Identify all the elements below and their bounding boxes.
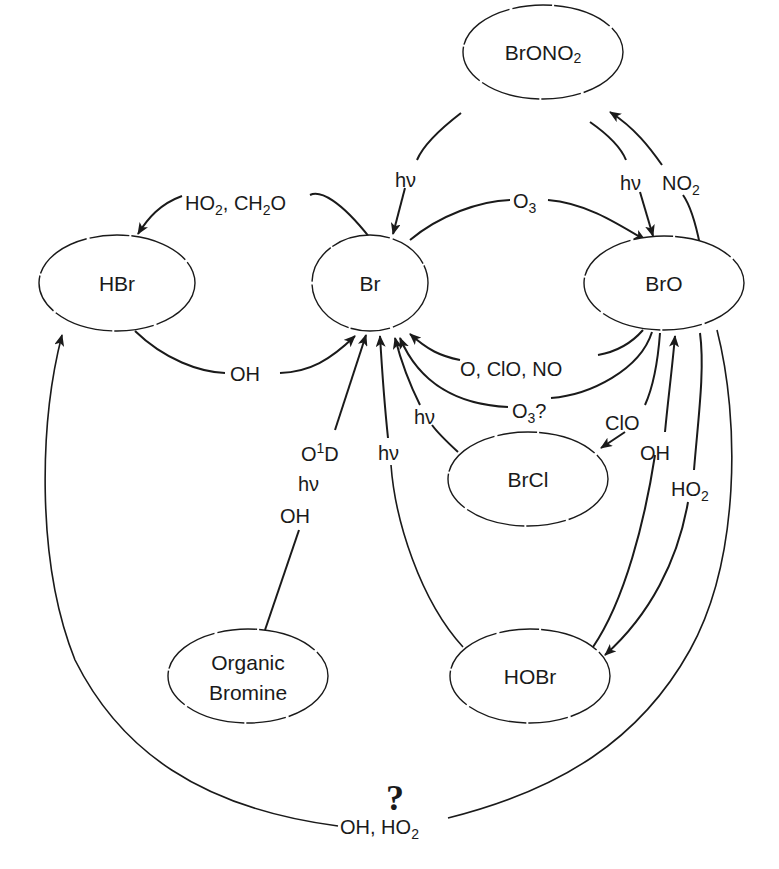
label-br-to-hbr: HO2, CH2O <box>185 192 286 218</box>
node-br: Br <box>312 235 428 331</box>
svg-text:BrONO2: BrONO2 <box>505 41 582 67</box>
edge-brcl-to-br <box>432 425 458 452</box>
label-brcl-to-br: hν <box>414 406 435 428</box>
node-hbr: HBr <box>39 235 195 331</box>
node-hbr-label: HBr <box>99 272 135 295</box>
label-bronono2-to-bro: hν <box>620 172 641 194</box>
node-brcl-label: BrCl <box>508 468 549 491</box>
node-br-label: Br <box>360 272 381 295</box>
node-bronono2-label: BrONO <box>505 41 574 64</box>
label-br-to-bro: O3 <box>513 190 537 216</box>
edge-bro-to-hobr <box>694 333 702 470</box>
label-hobr-to-bro: OH <box>640 442 670 464</box>
node-hobr: HOBr <box>450 629 610 723</box>
edge-hobr-to-br-arrow <box>380 336 388 438</box>
label-bro-to-brcl: ClO <box>605 412 639 434</box>
edge-bronono2-to-br-arrow <box>393 188 405 234</box>
edge-bro-to-hbr <box>448 330 732 818</box>
label-bro-to-br-a: O, ClO, NO <box>460 358 562 380</box>
edge-bronono2-to-bro <box>590 122 626 160</box>
node-hobr-label: HOBr <box>504 665 557 688</box>
svg-text:OH: OH <box>280 505 310 527</box>
node-organic-bromine-line2: Bromine <box>209 681 287 704</box>
label-bro-to-hobr: HO2 <box>671 478 709 504</box>
edge-bro-to-hbr-return <box>45 335 338 826</box>
node-bronono2: BrONO2 <box>463 5 623 99</box>
node-bro: BrO <box>584 236 744 330</box>
label-bro-to-hbr-question: ? <box>386 778 404 818</box>
node-organic-bromine: Organic Bromine <box>168 629 328 723</box>
bromine-cycle-diagram: BrONO2 HBr Br BrO BrCl Organic Bromine H… <box>0 0 779 869</box>
label-organic-to-br: O1D hν OH <box>280 440 339 527</box>
label-bro-to-bronono2: NO2 <box>662 172 700 198</box>
edge-brcl-to-br-arrow <box>395 338 420 405</box>
edge-bro-to-br-a <box>410 330 643 360</box>
label-hbr-to-br: OH <box>230 363 260 385</box>
label-bro-to-hbr: OH, HO2 <box>340 816 419 842</box>
edge-bro-to-brcl-arrow <box>601 432 625 448</box>
svg-text:hν: hν <box>298 473 319 495</box>
edge-bronono2-to-bro-arrow <box>640 192 653 236</box>
node-brcl: BrCl <box>448 432 608 526</box>
edge-hobr-to-bro-arrow <box>665 336 675 432</box>
node-bronono2-subscript: 2 <box>574 50 582 66</box>
label-hobr-to-br: hν <box>378 442 399 464</box>
node-organic-bromine-line1: Organic <box>211 651 285 674</box>
node-bro-label: BrO <box>645 272 682 295</box>
svg-text:O1D: O1D <box>301 440 339 465</box>
edge-bronono2-to-br <box>417 113 461 160</box>
edge-bro-to-bronono2-arrow <box>610 112 662 165</box>
edge-organic-to-br <box>265 530 299 630</box>
edge-bro-to-hobr-arrow <box>605 502 688 655</box>
label-bro-to-br-b: O3? <box>512 400 546 426</box>
label-bronono2-to-br: hν <box>395 169 416 191</box>
